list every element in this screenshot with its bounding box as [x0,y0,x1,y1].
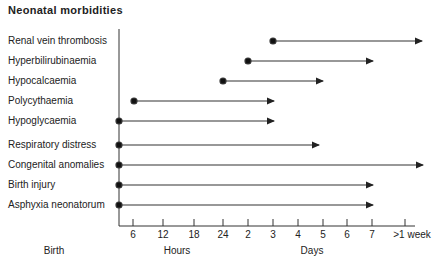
bar-congenital-anomalies [116,162,423,168]
tick-label: 3 [270,229,276,240]
bar-polycythaemia [131,98,274,104]
tick-label: 6 [344,229,350,240]
bar-hyperbilirubinaemia [245,58,373,64]
timeline-plot [0,0,438,262]
axis-label-hours: Hours [164,245,191,256]
bar-asphyxia-neonatorum [116,202,373,208]
tick-label: 2 [245,229,251,240]
bar-hypocalcaemia [220,78,323,84]
axis-label-days: Days [301,245,324,256]
tick-label: 4 [295,229,301,240]
tick-label: >1 week [393,229,431,240]
tick-label: 24 [217,229,228,240]
x-axis-ticks [133,219,405,226]
tick-label: 18 [188,229,199,240]
tick-label: 6 [130,229,136,240]
tick-label: 5 [320,229,326,240]
axis-label-birth: Birth [44,245,65,256]
bar-hypoglycaemia [116,118,274,124]
tick-label: 12 [157,229,168,240]
bar-birth-injury [116,182,373,188]
bar-respiratory-distress [116,142,319,148]
bar-renal-vein-thrombosis [270,38,422,44]
tick-label: 7 [369,229,375,240]
